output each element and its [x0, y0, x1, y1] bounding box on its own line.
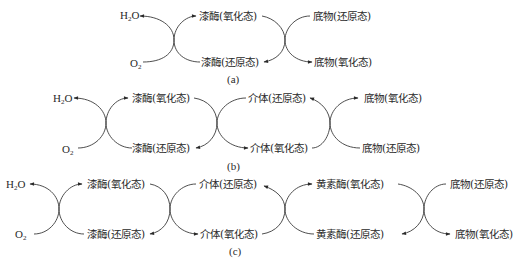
substrate-oxidized-label: 底物(氧化态)	[314, 56, 372, 68]
panel-b-curves	[74, 98, 360, 148]
laccase-reduced-label: 漆酶(还原态)	[201, 56, 259, 68]
laccase-reduced-label: 漆酶(还原态)	[132, 142, 190, 154]
laccase-oxidized-label: 漆酶(氧化态)	[87, 178, 145, 190]
substrate-reduced-label: 底物(还原态)	[362, 142, 420, 154]
mediator-reduced-label: 介体(还原态)	[248, 92, 306, 104]
panel-a-caption: (a)	[227, 73, 239, 85]
o2-label: O2	[15, 228, 26, 244]
laccase-redox-diagram: H2O O2 漆酶(氧化态) 漆酶(还原态) 底物(还原态) 底物(氧化态) (…	[0, 0, 523, 260]
laccase-oxidized-label: 漆酶(氧化态)	[132, 92, 190, 104]
mediator-reduced-label: 介体(还原态)	[199, 178, 257, 190]
flavoenzyme-reduced-label: 黄素酶(还原态)	[316, 228, 384, 240]
h2o-label: H2O	[120, 9, 139, 25]
panel-c-curves	[30, 184, 450, 234]
substrate-reduced-label: 底物(还原态)	[313, 10, 371, 22]
flavoenzyme-oxidized-label: 黄素酶(氧化态)	[316, 178, 384, 190]
substrate-oxidized-label: 底物(氧化态)	[455, 228, 513, 240]
o2-label: O2	[62, 143, 73, 159]
o2-label: O2	[130, 57, 141, 73]
substrate-oxidized-label: 底物(氧化态)	[364, 92, 422, 104]
panel-b-caption: (b)	[227, 160, 240, 172]
laccase-oxidized-label: 漆酶(氧化态)	[199, 10, 257, 22]
mediator-oxidized-label: 介体(氧化态)	[250, 142, 308, 154]
reaction-curves	[0, 0, 523, 260]
substrate-reduced-label: 底物(还原态)	[450, 178, 508, 190]
h2o-label: H2O	[53, 92, 72, 108]
laccase-reduced-label: 漆酶(还原态)	[87, 228, 145, 240]
mediator-oxidized-label: 介体(氧化态)	[200, 228, 258, 240]
panel-c-caption: (c)	[229, 245, 241, 257]
h2o-label: H2O	[6, 178, 25, 194]
